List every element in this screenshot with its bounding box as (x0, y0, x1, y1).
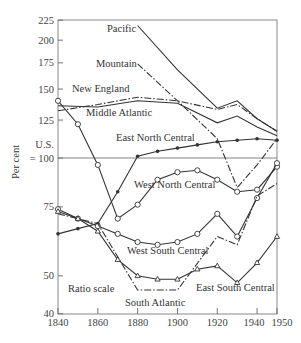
data-point (195, 231, 200, 236)
series-line-mountain (138, 64, 277, 188)
series-label-east-north-central: East North Central (116, 132, 195, 143)
us-equals-100-label: = 100 (30, 153, 54, 164)
us-label: U.S. (35, 139, 54, 150)
data-point (215, 140, 219, 144)
data-point (235, 189, 240, 194)
data-point (95, 228, 100, 233)
y-tick-label: 75 (44, 201, 55, 212)
ratio-scale-note: Ratio scale (68, 283, 115, 294)
y-tick-label: 125 (38, 115, 54, 126)
y-tick-label: 225 (38, 15, 54, 26)
plot-frame (58, 20, 277, 314)
series-label-west-north-central: West North Central (134, 179, 215, 190)
data-point (254, 187, 259, 192)
data-point (175, 239, 180, 244)
data-point (136, 155, 140, 159)
axes: 405075125150175200225U.S.= 100Per cent18… (10, 15, 293, 328)
x-tick-label: 1950 (272, 317, 293, 328)
series-line-pacific (138, 26, 277, 132)
data-point (135, 239, 140, 244)
data-point (235, 138, 239, 142)
data-point (215, 177, 220, 182)
x-tick-label: 1920 (207, 317, 228, 328)
data-point (215, 211, 220, 216)
data-point (274, 234, 279, 239)
series-label-south-atlantic: South Atlantic (125, 297, 186, 308)
data-point (196, 143, 200, 147)
x-tick-label: 1940 (244, 317, 265, 328)
series-label-west-south-central: West South Central (127, 245, 208, 256)
y-tick-label: 200 (38, 35, 54, 46)
x-tick-label: 1880 (127, 317, 148, 328)
series-label-middle-atlantic: Middle Atlantic (86, 107, 153, 118)
data-point (274, 161, 279, 166)
x-tick-label: 1860 (87, 317, 108, 328)
series-label-new-england: New England (72, 83, 130, 94)
data-point (195, 168, 200, 173)
data-point (176, 146, 180, 150)
y-axis-label: Per cent (10, 145, 21, 179)
data-point (115, 216, 120, 221)
regional-income-chart: 405075125150175200225U.S.= 100Per cent18… (0, 0, 301, 343)
data-point (255, 137, 259, 141)
data-point (156, 150, 160, 154)
data-point (254, 195, 259, 200)
data-point (215, 263, 220, 268)
x-tick-label: 1840 (48, 317, 69, 328)
data-point (116, 190, 120, 194)
data-point (55, 98, 60, 103)
series-label-east-south-central: East South Central (196, 282, 275, 293)
data-point (75, 122, 80, 127)
series-label-pacific: Pacific (107, 23, 136, 34)
data-point (275, 138, 279, 142)
data-point (95, 162, 100, 167)
data-point (76, 227, 80, 231)
series-line-west-north-central (58, 101, 277, 219)
y-tick-label: 50 (44, 270, 55, 281)
data-point (115, 231, 120, 236)
series-label-mountain: Mountain (96, 58, 138, 69)
y-tick-label: 150 (38, 84, 54, 95)
data-point (175, 170, 180, 175)
data-point (56, 232, 60, 236)
series-line-south-atlantic (58, 184, 277, 290)
x-tick-label: 1900 (167, 317, 188, 328)
data-point (235, 234, 240, 239)
y-tick-label: 175 (38, 57, 54, 68)
data-point (135, 202, 140, 207)
